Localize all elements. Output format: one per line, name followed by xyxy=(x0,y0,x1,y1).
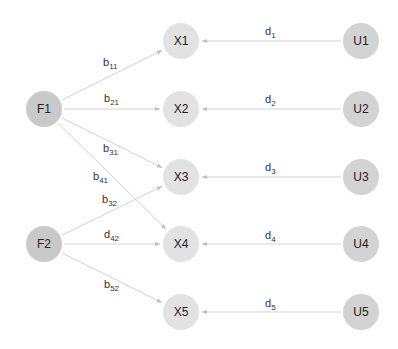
path-diagram: F1F2X1X2X3X4X5U1U2U3U4U5 b11b21b31b41b32… xyxy=(0,0,398,349)
node-f2: F2 xyxy=(26,226,62,262)
node-label: X1 xyxy=(174,34,189,48)
edge-f1-x3 xyxy=(62,118,162,168)
node-label: U4 xyxy=(353,237,369,251)
node-x3: X3 xyxy=(163,159,199,195)
edge-label-b31: b31 xyxy=(103,142,119,157)
node-x5: X5 xyxy=(163,294,199,330)
edge-label-b41: b41 xyxy=(93,170,109,185)
node-label: X2 xyxy=(174,102,189,116)
node-label: F1 xyxy=(37,102,51,116)
edge-label-d4: d4 xyxy=(265,229,276,244)
diagram-canvas: F1F2X1X2X3X4X5U1U2U3U4U5 b11b21b31b41b32… xyxy=(0,0,398,349)
edge-label-d1: d1 xyxy=(265,25,276,40)
node-label: U3 xyxy=(353,170,369,184)
node-u2: U2 xyxy=(343,91,379,127)
edge-label-b32: b32 xyxy=(102,193,118,208)
edge-label-d2: d2 xyxy=(265,93,276,108)
node-x1: X1 xyxy=(163,23,199,59)
node-label: X5 xyxy=(174,305,189,319)
node-label: U2 xyxy=(353,102,369,116)
edge-f2-x5 xyxy=(62,253,162,303)
node-label: X4 xyxy=(174,237,189,251)
edge-label-d5: d5 xyxy=(265,297,276,312)
edge-label-b11: b11 xyxy=(103,56,118,71)
node-u4: U4 xyxy=(343,226,379,262)
node-label: F2 xyxy=(37,237,51,251)
edge-label-d3: d3 xyxy=(265,161,276,176)
node-u3: U3 xyxy=(343,159,379,195)
node-u5: U5 xyxy=(343,294,379,330)
node-label: U1 xyxy=(353,34,369,48)
node-x2: X2 xyxy=(163,91,199,127)
edge-f1-x4 xyxy=(58,123,166,229)
edge-f1-x1 xyxy=(62,50,162,100)
node-label: U5 xyxy=(353,305,369,319)
edge-label-d42: d42 xyxy=(104,228,120,243)
node-x4: X4 xyxy=(163,226,199,262)
node-u1: U1 xyxy=(343,23,379,59)
node-f1: F1 xyxy=(26,91,62,127)
edge-label-b21: b21 xyxy=(104,92,120,107)
node-label: X3 xyxy=(174,170,189,184)
